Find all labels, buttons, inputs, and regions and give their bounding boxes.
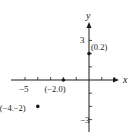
y-axis-label: y: [85, 10, 91, 21]
x-axis-label: x: [122, 74, 128, 85]
point-label: (−2.0): [44, 84, 65, 94]
data-point: [87, 52, 91, 56]
y-axis-arrow: [87, 22, 92, 28]
y-tick-label: −3: [80, 115, 90, 125]
coordinate-plane: xy−53−3(0.2)(−2.0)(−4.−2): [0, 0, 135, 140]
axes: [11, 22, 119, 132]
point-label: (0.2): [91, 42, 107, 52]
y-tick-label: 3: [80, 35, 85, 45]
point-label: (−4.−2): [0, 103, 26, 113]
data-point: [36, 105, 40, 109]
x-axis-arrow: [113, 78, 119, 83]
labels: xy−53−3(0.2)(−2.0)(−4.−2): [0, 10, 128, 125]
data-point: [62, 78, 66, 82]
x-tick-label: −5: [19, 84, 29, 94]
